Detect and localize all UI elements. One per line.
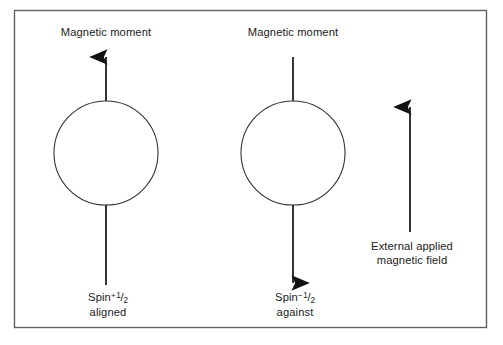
spin-up-moment-label: Magnetic moment [61,26,151,40]
spin-down-group [241,57,345,283]
spin-up-group [54,57,158,285]
figure-root: Magnetic moment Magnetic moment Spin+1/2… [0,0,503,345]
spin-up-fraction: 1/2 [116,291,128,306]
external-field-label-line1: External applied [371,240,453,254]
spin-up-word: Spin [88,291,111,303]
external-field-label: External applied magnetic field [371,240,453,267]
external-field-label-line2: magnetic field [371,254,453,268]
spin-up-alignment-label: aligned [88,306,128,320]
spin-up-nucleus-circle [54,101,158,205]
spin-up-state-label: Spin+1/2 aligned [88,291,128,320]
spin-down-state-label: Spin−1/2 against [275,291,315,320]
spin-up-fraction-denominator: 2 [124,295,128,304]
spin-down-fraction: 1/2 [303,291,315,306]
spin-down-fraction-denominator: 2 [311,295,315,304]
spin-diagram-canvas [0,0,503,345]
spin-down-moment-label: Magnetic moment [248,26,338,40]
figure-border [15,11,487,328]
spin-down-nucleus-circle [241,101,345,205]
spin-down-word: Spin [275,291,298,303]
spin-down-alignment-label: against [275,306,315,320]
